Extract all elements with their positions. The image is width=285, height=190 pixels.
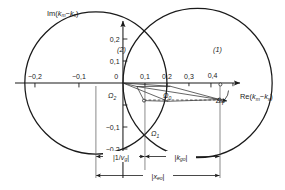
delta-phi-label: Δφ — [215, 96, 226, 105]
x-tick-label: 0 — [114, 73, 118, 80]
construction-lines — [123, 83, 220, 101]
x-tick-label: −0,1 — [72, 73, 86, 80]
x-tick-label: 0,1 — [140, 73, 150, 80]
delta-phi-arc — [225, 91, 229, 100]
figure-canvas: −0,2 −0,1 0 0,1 0,2 0,3 0,4 0,2 0,1 −0,1… — [0, 0, 285, 190]
dim-inv-vg-label: |1/vg| — [113, 153, 129, 163]
circle-1-label: (1) — [213, 45, 222, 54]
omega-0-label: Ω0 — [163, 91, 171, 101]
complex-plane-diagram: −0,2 −0,1 0 0,1 0,2 0,3 0,4 0,2 0,1 −0,1… — [0, 0, 285, 190]
y-tick-label: 0,1 — [110, 58, 120, 65]
node-markers — [143, 83, 222, 102]
x-axis-label: Re(km−ks) — [240, 92, 273, 102]
x-tick-label: 0,2 — [162, 73, 172, 80]
omega-1-label: Ω1 — [151, 129, 159, 139]
omega-2-label: Ω2 — [108, 91, 116, 101]
y-tick-label: −0,1 — [106, 124, 120, 131]
x-tick-label: 0,4 — [208, 72, 218, 79]
x-tick-label: 0,3 — [184, 73, 194, 80]
x-tick-label: −0,2 — [28, 73, 42, 80]
y-tick-label: 0,2 — [110, 36, 120, 43]
y-axis-label: Im(km−ks) — [47, 9, 79, 19]
circle-2-label: (2) — [117, 45, 126, 54]
